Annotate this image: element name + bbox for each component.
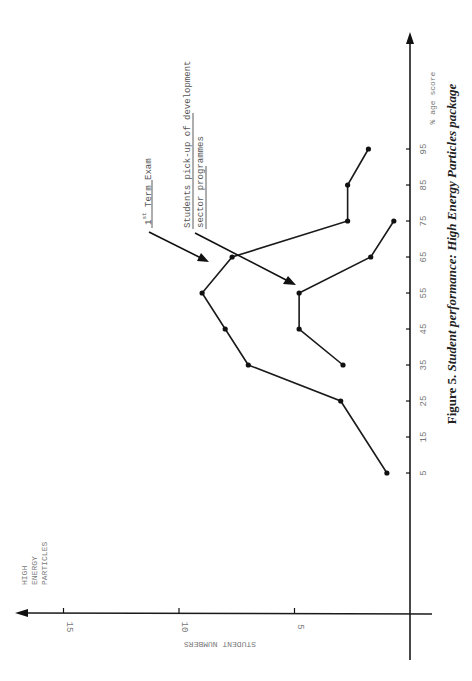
annotation-1st-rest: Term Exam	[144, 158, 154, 212]
data-point	[345, 182, 350, 187]
arrow-head-icon	[283, 276, 296, 285]
subject-label-line-2: ENERGY	[30, 556, 39, 585]
series-1-line	[202, 149, 387, 473]
x-tick-label: 5	[419, 470, 429, 475]
y-tick-label: 10	[179, 622, 189, 633]
annotation-dev-arrow-line	[195, 233, 290, 282]
y-tick-label: 5	[295, 624, 305, 629]
axes	[15, 32, 432, 660]
subject-label-line-1: HIGH	[20, 566, 29, 585]
data-point	[297, 326, 302, 331]
y-tick-label: 15	[64, 622, 74, 633]
series-layer	[200, 146, 397, 475]
x-tick-label: 75	[419, 216, 429, 227]
data-point	[340, 362, 345, 367]
y-axis-line	[22, 613, 432, 614]
annotation-1st-arrow-line	[149, 232, 203, 259]
y-ticks: 51015	[64, 608, 305, 632]
x-tick-label: 85	[419, 180, 429, 191]
data-point	[200, 290, 205, 295]
data-point	[368, 254, 373, 259]
data-point	[338, 398, 343, 403]
annotation-dev-line-2: sector programmes	[196, 136, 206, 228]
data-point	[391, 218, 396, 223]
subject-label: HIGH ENERGY PARTICLES	[20, 542, 49, 585]
x-tick-label: 45	[419, 324, 429, 335]
x-axis-arrow-icon	[406, 32, 414, 44]
data-point	[384, 470, 389, 475]
x-tick-label: 15	[419, 432, 429, 443]
x-tick-label: 95	[419, 144, 429, 155]
data-point	[345, 218, 350, 223]
y-axis-arrow-icon	[15, 609, 28, 617]
x-tick-label: 35	[419, 360, 429, 371]
annotation-development: Students pick-up of development sector p…	[183, 61, 296, 285]
x-tick-label: 65	[419, 252, 429, 263]
y-axis-label: STUDENT NUMBERS	[184, 640, 256, 649]
data-point	[297, 290, 302, 295]
line-chart: 5152535455565758595 51015 % age score ST…	[0, 0, 472, 681]
x-tick-label: 55	[419, 288, 429, 299]
caption-prefix: Figure 5.	[444, 375, 459, 425]
arrow-head-icon	[197, 253, 209, 262]
data-point	[366, 146, 371, 151]
series-2-line	[299, 221, 394, 365]
data-point	[230, 254, 235, 259]
x-axis-label: % age score	[428, 71, 437, 124]
x-tick-label: 25	[419, 396, 429, 407]
figure-caption: Figure 5. Student performance: High Ener…	[444, 83, 459, 424]
data-point	[223, 326, 228, 331]
subject-label-line-3: PARTICLES	[40, 542, 49, 585]
annotation-dev-line-1: Students pick-up of development	[183, 61, 193, 228]
data-point	[246, 362, 251, 367]
annotation-1st-sup: st	[141, 212, 148, 219]
caption-rest: Student performance: High Energy Particl…	[444, 83, 459, 371]
